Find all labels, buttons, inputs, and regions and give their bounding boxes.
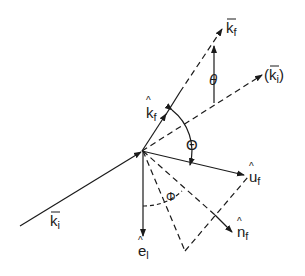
uf-unit-vector-line <box>142 151 244 175</box>
svg-text:^: ^ <box>146 95 151 106</box>
diagram-svg: kf (ki) kf ^ θ Θ Φ uf ^ nf ^ el ^ ki <box>0 0 305 276</box>
svg-text:^: ^ <box>237 216 242 227</box>
kf-hat-label: kf <box>146 104 158 123</box>
kf-vector-label: kf <box>226 19 238 38</box>
svg-text:^: ^ <box>249 161 254 172</box>
nf-unit-vector-line <box>215 215 232 232</box>
theta-small-label: θ <box>209 71 217 88</box>
projection-dashed-line <box>143 151 185 251</box>
theta-big-label: Θ <box>186 136 198 153</box>
scattering-vector-diagram: kf (ki) kf ^ θ Θ Φ uf ^ nf ^ el ^ ki <box>0 0 305 276</box>
phi-label: Φ <box>166 190 176 204</box>
kf-solid-extension <box>165 92 180 116</box>
svg-text:^: ^ <box>138 235 143 246</box>
incident-wavevector-line <box>20 152 141 226</box>
ki-extension-dashed-line <box>142 75 262 151</box>
ki-label: ki <box>50 212 60 231</box>
ki-paren-label: (ki) <box>264 66 284 85</box>
